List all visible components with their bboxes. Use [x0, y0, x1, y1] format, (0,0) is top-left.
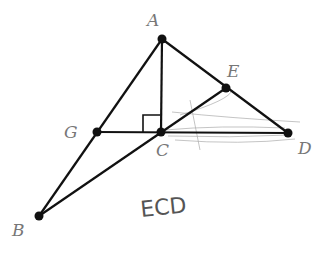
point-A — [158, 35, 167, 44]
point-E — [222, 84, 231, 93]
label-C: C — [156, 140, 169, 160]
geometry-diagram: A E G C D B ECD — [0, 0, 327, 256]
pencil-shading — [165, 90, 300, 150]
point-G — [93, 128, 102, 137]
point-B — [35, 212, 44, 221]
label-G: G — [64, 122, 78, 142]
point-C — [157, 128, 166, 137]
point-D — [284, 129, 293, 138]
label-A: A — [145, 10, 159, 30]
segment-GD — [97, 132, 288, 133]
segment-AC — [161, 39, 162, 132]
label-E: E — [226, 61, 240, 81]
label-B: B — [11, 220, 25, 240]
segment-BE — [39, 88, 226, 216]
handwritten-note: ECD — [139, 192, 188, 222]
label-D: D — [297, 138, 312, 158]
